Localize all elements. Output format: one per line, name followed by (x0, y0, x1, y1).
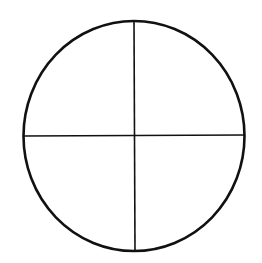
background (0, 0, 262, 263)
quartered-circle-diagram (0, 0, 262, 263)
vertical-divider-line (134, 21, 135, 251)
